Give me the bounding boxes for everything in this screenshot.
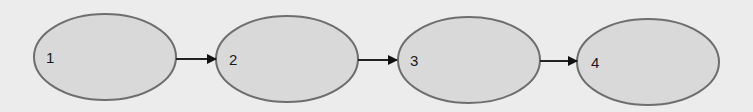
node-1-shape <box>34 14 176 100</box>
node-4-label: 4 <box>591 55 599 70</box>
diagram-graphics <box>0 0 753 112</box>
node-3-label: 3 <box>410 53 418 68</box>
node-3-shape <box>398 17 540 103</box>
node-1-label: 1 <box>46 50 54 65</box>
flow-diagram: 1 2 3 4 <box>0 0 753 112</box>
node-2-label: 2 <box>229 52 237 67</box>
